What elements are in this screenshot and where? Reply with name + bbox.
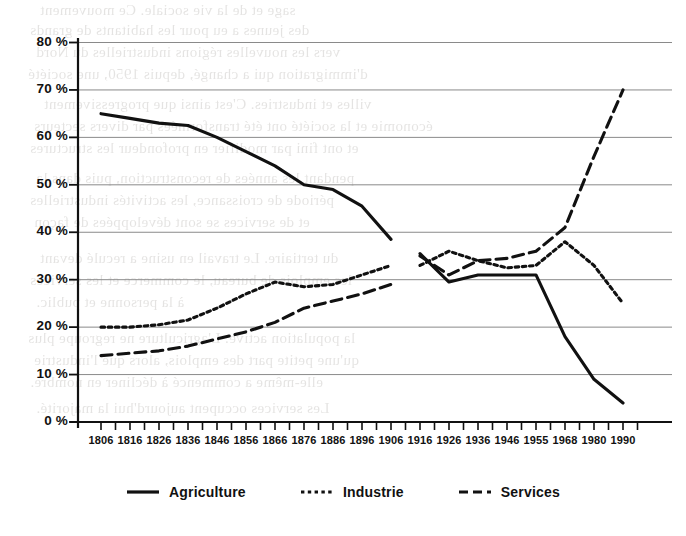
x-tick-label: 1816 — [118, 434, 143, 446]
legend-label-agriculture: Agriculture — [169, 484, 246, 500]
x-tick-label: 1836 — [176, 434, 201, 446]
x-tick-label: 1806 — [89, 434, 114, 446]
x-tick-label: 1866 — [263, 434, 288, 446]
x-tick-label: 1968 — [553, 434, 578, 446]
x-axis-tick-labels: 1806181618261836184618561866187618861896… — [0, 0, 686, 536]
x-tick-label: 1916 — [408, 434, 433, 446]
x-tick-label: 1846 — [205, 434, 230, 446]
legend-item-agriculture: Agriculture — [126, 484, 246, 500]
line-chart: 80 %70 %60 %50 %40 %30 %20 %10 %0 % 1806… — [0, 0, 686, 536]
x-tick-label: 1906 — [379, 434, 404, 446]
chart-legend: Agriculture Industrie Services — [0, 484, 686, 500]
legend-swatch-dotted-icon — [300, 486, 334, 498]
x-tick-label: 1886 — [321, 434, 346, 446]
x-tick-label: 1876 — [292, 434, 317, 446]
x-tick-label: 1936 — [466, 434, 491, 446]
x-tick-label: 1955 — [524, 434, 549, 446]
legend-swatch-dashed-icon — [458, 486, 492, 498]
legend-swatch-solid-icon — [126, 486, 160, 498]
x-tick-label: 1980 — [582, 434, 607, 446]
legend-item-industrie: Industrie — [300, 484, 404, 500]
x-tick-label: 1896 — [350, 434, 375, 446]
x-tick-label: 1926 — [437, 434, 462, 446]
legend-label-industrie: Industrie — [343, 484, 404, 500]
x-tick-label: 1990 — [611, 434, 636, 446]
x-tick-label: 1826 — [147, 434, 172, 446]
x-tick-label: 1856 — [234, 434, 259, 446]
x-tick-label: 1946 — [495, 434, 520, 446]
legend-item-services: Services — [458, 484, 560, 500]
legend-label-services: Services — [501, 484, 560, 500]
